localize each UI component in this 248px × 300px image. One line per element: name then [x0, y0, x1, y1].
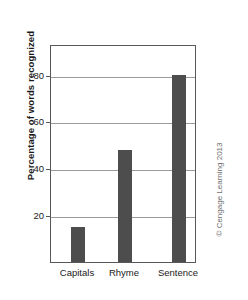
- plot-area: [50, 45, 196, 263]
- x-tick-label-rhyme: Rhyme: [109, 267, 139, 278]
- y-tick-label-40: 40: [24, 164, 44, 174]
- bar-rhyme: [118, 150, 132, 263]
- bar-sentence: [172, 75, 186, 263]
- y-tick-label-60: 60: [24, 117, 44, 127]
- x-tick-label-sentence: Sentence: [158, 267, 198, 278]
- y-tick-label-20: 20: [24, 211, 44, 221]
- bar-chart-figure: Percentage of words recognized 20406080 …: [0, 0, 248, 300]
- copyright-credit: © Cengage Learning 2013: [215, 110, 224, 270]
- y-tick-label-80: 80: [24, 71, 44, 81]
- bar-capitals: [71, 227, 85, 262]
- x-tick-label-capitals: Capitals: [60, 267, 94, 278]
